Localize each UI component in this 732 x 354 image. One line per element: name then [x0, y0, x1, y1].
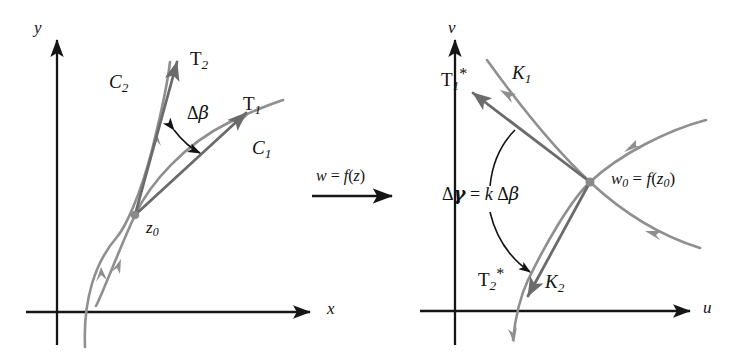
tangent-label-T1-star-base: T [441, 69, 453, 90]
point-label-z0-base: z [146, 218, 153, 237]
conformal-mapping-figure: y x C2 C1 T2 T1 Δβ z0 w = f(z) v u T1* T… [0, 0, 732, 354]
y-axis-label: y [34, 19, 42, 36]
curve-K1-arrowhead-lower [645, 231, 661, 240]
point-close: ) [669, 169, 675, 188]
v-axis-label: v [448, 19, 456, 36]
tangent-label-T2: T2 [190, 49, 208, 71]
tangent-label-T2-star: T2* [478, 266, 504, 292]
curve-label-K1-base: K [512, 62, 525, 83]
angle-beta2-symbol: β [509, 183, 519, 204]
left-panel-group [26, 40, 310, 347]
angle-delta2-symbol: Δ [497, 184, 509, 204]
angle-label-delta-beta: Δβ [187, 104, 209, 122]
tangent-label-T2-sub: 2 [202, 57, 209, 72]
u-axis-label: u [703, 299, 712, 316]
map-close: ) [360, 167, 365, 184]
curve-label-C1-base: C [252, 137, 265, 158]
angle-delta1-symbol: Δ [442, 184, 454, 204]
curve-K1 [487, 60, 700, 248]
curve-K2 [513, 120, 706, 340]
tangent-label-T2-star-base: T [478, 269, 490, 290]
curve-label-K1-sub: 1 [525, 71, 532, 86]
curve-label-K2-base: K [545, 271, 558, 292]
point-equals: = [633, 169, 643, 188]
angle-gamma-symbol: γ [454, 183, 466, 204]
curve-label-K2-sub: 2 [558, 280, 565, 295]
tangent-T1-arrow [135, 113, 246, 215]
x-axis-label: x [327, 300, 335, 317]
tangent-label-T1-star-star: * [459, 65, 467, 82]
curve-C1 [96, 100, 283, 306]
curve-label-C1-sub: 1 [265, 146, 272, 161]
point-label-w0: w0 = f(z0) [611, 170, 675, 190]
point-w0-marker [586, 178, 595, 187]
angle-k-symbol: k [485, 184, 493, 204]
angle-equals: = [470, 184, 480, 204]
tangent-T2-arrow [135, 62, 177, 215]
tangent-label-T1: T1 [243, 94, 261, 116]
map-equals: = [331, 167, 340, 184]
tangent-label-T2-star-star: * [496, 265, 504, 282]
curve-label-K2: K2 [545, 272, 564, 294]
point-z0-marker [131, 211, 140, 220]
angle-delta-symbol: Δ [187, 103, 199, 123]
tangent-label-T1-base: T [243, 93, 255, 114]
tangent-T1-star-arrow [473, 93, 590, 182]
curve-label-C2-sub: 2 [122, 80, 129, 95]
tangent-label-T1-sub: 1 [255, 102, 262, 117]
tangent-label-T1-star: T1* [441, 66, 467, 92]
curve-label-C2-base: C [109, 71, 122, 92]
map-arrow-label: w = f(z) [316, 168, 365, 184]
map-w: w [316, 167, 327, 184]
angle-leader-upper [490, 130, 515, 186]
angle-label-delta-gamma: Δγ = k Δβ [442, 185, 519, 203]
curve-label-C1: C1 [252, 138, 271, 160]
angle-leader-lower [490, 212, 530, 272]
curve-label-C2: C2 [109, 72, 128, 94]
point-label-z0-sub: 0 [153, 225, 159, 239]
point-w: w [611, 169, 622, 188]
point-label-z0: z0 [146, 219, 159, 239]
curve-label-K1: K1 [512, 63, 531, 85]
tangent-label-T2-base: T [190, 48, 202, 69]
angle-beta-symbol: β [199, 102, 209, 123]
